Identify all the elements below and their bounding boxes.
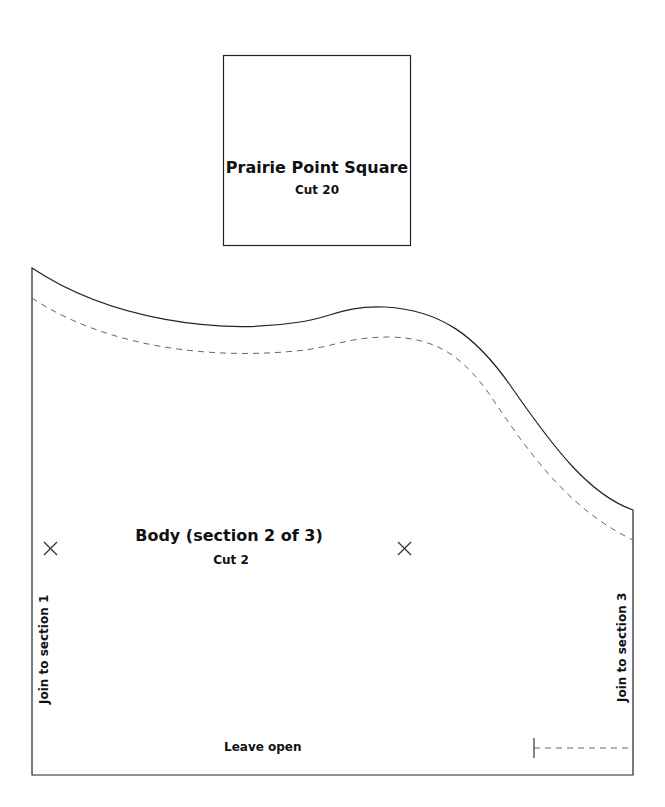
body-cut-count: Cut 2	[213, 553, 249, 567]
square-title: Prairie Point Square	[226, 158, 408, 177]
cross-mark-left-icon	[44, 542, 57, 555]
seam-allowance-line	[32, 298, 633, 540]
bottom-edge-label: Leave open	[224, 740, 302, 754]
square-cut-count: Cut 20	[295, 183, 339, 197]
right-edge-label: Join to section 3	[615, 593, 629, 702]
body-section-outline	[32, 268, 633, 775]
prairie-point-square-outline	[224, 56, 411, 246]
pattern-drawing	[0, 0, 665, 807]
left-edge-label: Join to section 1	[37, 595, 51, 704]
cross-mark-right-icon	[398, 542, 411, 555]
body-title: Body (section 2 of 3)	[135, 526, 323, 545]
